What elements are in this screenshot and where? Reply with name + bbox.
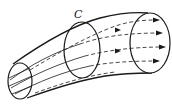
label-c: C (74, 8, 83, 21)
tube-bottom-edge (27, 73, 152, 98)
right-end-cross-section (130, 13, 170, 73)
cross-section-loop-c (64, 22, 100, 78)
flux-tube-diagram: C (0, 0, 172, 111)
arrow-icon (115, 28, 121, 33)
